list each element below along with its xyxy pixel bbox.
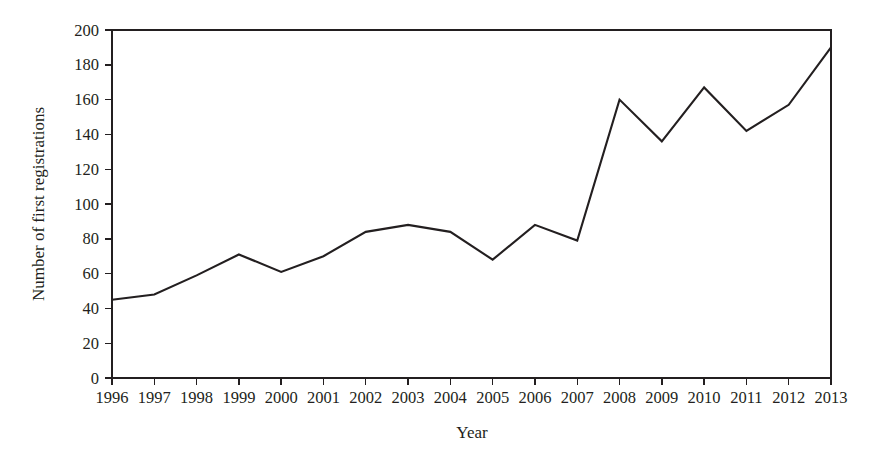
y-tick-label: 40 [83,299,100,318]
x-axis-title: Year [456,423,488,442]
x-tick-label: 2008 [603,388,636,407]
x-tick-label: 2000 [265,388,298,407]
x-tick-label: 2007 [561,388,594,407]
chart-page: 020406080100120140160180200 199619971998… [0,0,895,463]
y-tick-label: 140 [74,125,99,144]
x-tick-label: 2004 [434,388,467,407]
x-tick-label: 2003 [392,388,425,407]
x-tick-label: 2013 [815,388,848,407]
y-tick-label: 120 [74,160,99,179]
x-tick-label: 2011 [730,388,762,407]
y-tick-label: 100 [74,195,99,214]
x-tick-label: 2012 [772,388,805,407]
x-tick-label: 2006 [518,388,551,407]
x-tick-label: 2001 [307,388,340,407]
y-tick-label: 180 [74,55,99,74]
y-tick-label: 60 [83,264,100,283]
x-tick-label: 1997 [138,388,171,407]
x-tick-label: 2005 [476,388,509,407]
y-tick-label: 200 [74,21,99,40]
y-tick-label: 0 [91,369,99,388]
x-tick-label: 1996 [96,388,129,407]
x-tick-label: 2002 [349,388,382,407]
x-tick-label: 1999 [222,388,255,407]
x-tick-label: 2010 [688,388,721,407]
line-chart: 020406080100120140160180200 199619971998… [0,0,895,463]
y-axis-title: Number of first registrations [29,107,48,301]
x-tick-label: 2009 [645,388,678,407]
y-tick-label: 20 [83,334,100,353]
x-tick-label: 1998 [180,388,213,407]
y-tick-label: 160 [74,90,99,109]
y-tick-label: 80 [83,229,100,248]
